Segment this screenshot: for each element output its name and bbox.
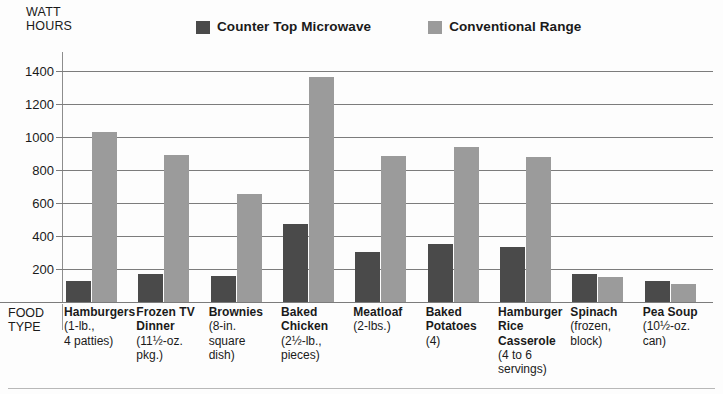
category-label-detail: (10½-oz. can)	[643, 319, 719, 348]
bar	[355, 252, 380, 302]
legend-label: Counter Top Microwave	[217, 20, 371, 34]
legend-label: Conventional Range	[449, 20, 581, 34]
bar	[309, 77, 334, 302]
category-label-detail: (8-in. square dish)	[209, 319, 285, 362]
y-axis-tick-label: 1000	[25, 129, 54, 144]
y-axis-tick-label: 200	[32, 261, 54, 276]
category-label: Hamburger Rice Casserole(4 to 6 servings…	[498, 305, 574, 376]
category-label-name: Hamburgers	[64, 305, 140, 319]
category-label-detail: (frozen, block)	[570, 319, 646, 348]
category-label-detail: (2-lbs.)	[353, 319, 429, 333]
bar-group	[279, 54, 351, 302]
category-label: Spinach(frozen, block)	[570, 305, 646, 348]
category-label: Hamburgers(1-lb., 4 patties)	[64, 305, 140, 348]
category-label: Brownies(8-in. square dish)	[209, 305, 285, 362]
category-label-name: Pea Soup	[643, 305, 719, 319]
bar-group	[568, 54, 640, 302]
bar	[454, 147, 479, 302]
bar	[92, 132, 117, 302]
y-axis-tick-label: 800	[32, 162, 54, 177]
legend-swatch-icon	[196, 21, 210, 34]
category-label: Baked Chicken(2½-lb., pieces)	[281, 305, 357, 362]
bars-layer	[62, 54, 713, 302]
bar	[428, 244, 453, 302]
category-label: Frozen TV Dinner(11½-oz. pkg.)	[136, 305, 212, 362]
category-label-detail: (2½-lb., pieces)	[281, 334, 357, 363]
bar	[598, 277, 623, 302]
category-label-detail: (4 to 6 servings)	[498, 348, 574, 377]
bar-group	[62, 54, 134, 302]
chart-legend: Counter Top Microwave Conventional Range	[196, 20, 581, 34]
bar	[671, 284, 696, 302]
bar	[211, 276, 236, 302]
category-label-detail: (4)	[426, 334, 502, 348]
legend-swatch-icon	[428, 21, 442, 34]
bar	[572, 274, 597, 302]
category-label-name: Spinach	[570, 305, 646, 319]
bar	[164, 155, 189, 302]
x-axis-baseline	[0, 302, 713, 303]
bar	[381, 156, 406, 302]
footer-divider	[8, 388, 715, 389]
category-label-name: Baked Chicken	[281, 305, 357, 334]
legend-item-conventional-range: Conventional Range	[428, 20, 581, 34]
bar	[526, 157, 551, 302]
bar-group	[351, 54, 423, 302]
category-label-name: Frozen TV Dinner	[136, 305, 212, 334]
y-axis-tick-label: 1400	[25, 63, 54, 78]
category-label: Meatloaf(2-lbs.)	[353, 305, 429, 334]
category-label-name: Brownies	[209, 305, 285, 319]
bar	[500, 247, 525, 302]
y-axis-unit-caption: WATT HOURS	[26, 6, 72, 33]
category-label-name: Meatloaf	[353, 305, 429, 319]
y-axis-tick-label: 1200	[25, 96, 54, 111]
bar	[237, 194, 262, 302]
legend-item-counter-top-microwave: Counter Top Microwave	[196, 20, 371, 34]
bar-group	[496, 54, 568, 302]
y-axis-tick-labels: 200400600800100012001400	[4, 54, 54, 302]
watt-hours-bar-chart: WATT HOURS Counter Top Microwave Convent…	[0, 0, 723, 394]
category-label: Baked Potatoes(4)	[426, 305, 502, 348]
bar-group	[641, 54, 713, 302]
category-label-name: Hamburger Rice Casserole	[498, 305, 574, 348]
category-labels: Hamburgers(1-lb., 4 patties)Frozen TV Di…	[62, 305, 713, 387]
bar-group	[207, 54, 279, 302]
bar-group	[134, 54, 206, 302]
category-label-detail: (11½-oz. pkg.)	[136, 334, 212, 363]
y-axis-tick-label: 400	[32, 228, 54, 243]
category-label-detail: (1-lb., 4 patties)	[64, 319, 140, 348]
bar	[138, 274, 163, 302]
plot-area: 200400600800100012001400	[62, 54, 713, 302]
bar	[645, 281, 670, 302]
y-axis-tick-label: 600	[32, 195, 54, 210]
bar	[66, 281, 91, 302]
x-axis-caption: FOOD TYPE	[8, 307, 44, 334]
bar-group	[424, 54, 496, 302]
bar	[283, 224, 308, 302]
category-label-name: Baked Potatoes	[426, 305, 502, 334]
category-label: Pea Soup(10½-oz. can)	[643, 305, 719, 348]
